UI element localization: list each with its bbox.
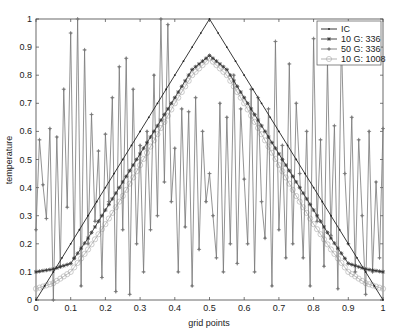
y-tick-label: 0.3: [19, 211, 32, 221]
legend-entry: 10 G: 1008: [341, 54, 386, 64]
y-tick-label: 0.5: [19, 155, 32, 165]
x-tick-label: 0.2: [99, 303, 112, 313]
x-tick-label: 0: [33, 303, 38, 313]
x-tick-label: 0.1: [64, 303, 77, 313]
y-tick-label: 0.9: [19, 42, 32, 52]
y-tick-label: 1: [27, 14, 32, 24]
x-tick-label: 0.3: [134, 303, 147, 313]
x-axis-label: grid points: [188, 318, 230, 328]
x-tick-label: 0.9: [342, 303, 355, 313]
x-tick-label: 1: [380, 303, 385, 313]
legend-entry: IC: [341, 24, 351, 34]
y-axis-label: temperature: [4, 136, 14, 185]
y-tick-label: 0.4: [19, 183, 32, 193]
y-tick-label: 0.7: [19, 98, 32, 108]
y-tick-label: 0.2: [19, 239, 32, 249]
x-tick-label: 0.8: [307, 303, 320, 313]
y-tick-label: 0.6: [19, 126, 32, 136]
legend-entry: 50 G: 336: [341, 44, 381, 54]
chart: 00.10.20.30.40.50.60.70.80.9100.10.20.30…: [0, 0, 398, 333]
legend-entry: 10 G: 336: [341, 34, 381, 44]
legend: IC10 G: 33650 G: 33610 G: 1008: [317, 21, 386, 65]
y-tick-label: 0.1: [19, 267, 32, 277]
x-tick-label: 0.4: [169, 303, 182, 313]
x-tick-label: 0.6: [238, 303, 251, 313]
y-tick-label: 0: [27, 295, 32, 305]
x-tick-label: 0.5: [203, 303, 216, 313]
x-tick-label: 0.7: [273, 303, 286, 313]
y-tick-label: 0.8: [19, 70, 32, 80]
